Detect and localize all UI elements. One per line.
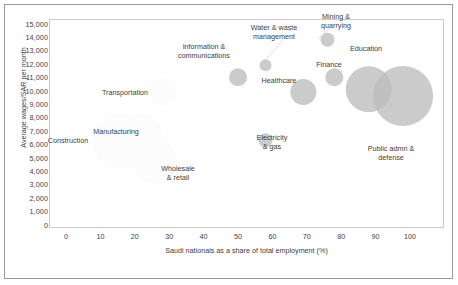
x-tick-label: 30 <box>154 233 184 241</box>
bubble-label-information-communications: Information & communications <box>159 42 249 60</box>
x-tick-label: 10 <box>85 233 115 241</box>
x-tick-label: 70 <box>292 233 322 241</box>
bubble-label-electricity-gas: Electricity & gas <box>227 133 317 151</box>
x-tick-label: 50 <box>223 233 253 241</box>
bubble-label-wholesale-retail: Wholesale & retail <box>133 164 223 182</box>
y-axis-title: Average wages/SAR per month <box>19 23 28 173</box>
bubble-label-transportation: Transportation <box>80 88 170 97</box>
bubble-label-construction: Construction <box>23 136 113 145</box>
bubble-label-healthcare: Healthcare <box>234 76 324 85</box>
x-tick-label: 0 <box>51 233 81 241</box>
x-tick-label: 20 <box>120 233 150 241</box>
bubble-label-education: Education <box>321 44 411 53</box>
bubble-label-mining-quarrying: Mining & quarrying <box>291 12 381 30</box>
x-axis-title: Saudi nationals as a share of total empl… <box>49 246 444 255</box>
bubble-label-public-admn-defense: Public admn & defense <box>346 144 436 162</box>
bubble-chart: 15,00014,00013,00012,00011,00010,0009,00… <box>0 0 458 285</box>
x-tick-label: 100 <box>395 233 425 241</box>
x-tick-label: 60 <box>257 233 287 241</box>
x-tick-label: 80 <box>326 233 356 241</box>
bubble-label-finance: Finance <box>284 60 374 69</box>
x-tick-label: 40 <box>189 233 219 241</box>
bubble-label-manufacturing: Manufacturing <box>71 127 161 136</box>
x-tick-label: 90 <box>361 233 391 241</box>
